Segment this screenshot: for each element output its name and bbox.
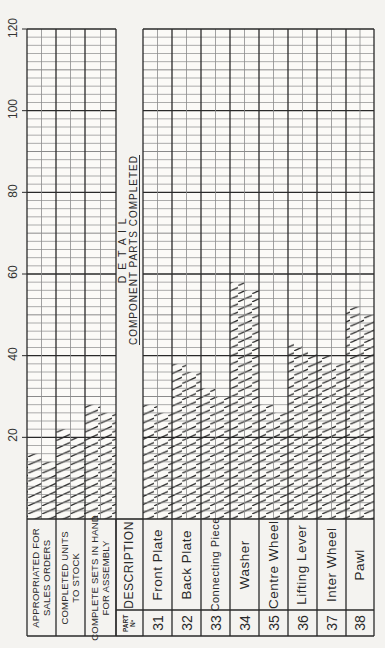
parts-bar-2-b bbox=[216, 397, 231, 520]
part-description-31: Front Plate bbox=[143, 519, 172, 610]
header-label-completed-units: COMPLETED UNITSTO STOCK bbox=[56, 519, 85, 636]
part-description-34: Washer bbox=[230, 519, 259, 610]
header-label-complete-sets: COMPLETE SETS IN HANDFOR ASSEMBLY bbox=[85, 519, 116, 636]
parts-bar-6-b bbox=[332, 364, 347, 519]
part-description-35: Centre Wheel bbox=[259, 519, 288, 610]
parts-bar-5 bbox=[288, 343, 303, 519]
detail-title-line1: D E T A I L bbox=[116, 155, 128, 345]
parts-bar-4-b bbox=[274, 413, 289, 519]
axis-label-80: 80 bbox=[6, 176, 20, 206]
part-number-36: 36 bbox=[288, 610, 317, 636]
production-progress-chart: 20 40 60 80 100 120 D E T A I L COMPONEN… bbox=[0, 0, 385, 648]
part-number-35: 35 bbox=[259, 610, 288, 636]
parts-bar-3 bbox=[230, 282, 245, 519]
parts-bar-5-b bbox=[303, 352, 318, 519]
description-header: DESCRIPTION bbox=[116, 519, 143, 610]
header-label-appropriated: APPROPRIATED FORSALES ORDERS bbox=[27, 519, 56, 636]
detail-title: D E T A I L COMPONENT PARTS COMPLETED bbox=[113, 140, 143, 360]
part-number-32: 32 bbox=[172, 610, 201, 636]
axis-label-40: 40 bbox=[6, 339, 20, 369]
parts-bar-7-b bbox=[360, 315, 374, 519]
part-description-32: Back Plate bbox=[172, 519, 201, 610]
header-bar-0-b bbox=[42, 462, 57, 519]
part-no-header: PARTNº bbox=[116, 610, 143, 636]
axis-label-100: 100 bbox=[6, 94, 20, 124]
axis-label-20: 20 bbox=[6, 420, 20, 450]
header-bar-1 bbox=[56, 429, 71, 519]
part-description-36: Lifting Lever bbox=[288, 519, 317, 610]
part-number-38: 38 bbox=[346, 610, 374, 636]
detail-title-line2: COMPONENT PARTS COMPLETED bbox=[128, 155, 140, 345]
parts-bar-0-b bbox=[158, 413, 173, 519]
part-number-34: 34 bbox=[230, 610, 259, 636]
part-number-31: 31 bbox=[143, 610, 172, 636]
parts-bar-1 bbox=[172, 364, 187, 519]
part-description-37: Inter Wheel bbox=[317, 519, 346, 610]
header-bar-2-b bbox=[101, 413, 117, 519]
part-description-33: Connecting Piece bbox=[201, 519, 230, 610]
part-number-37: 37 bbox=[317, 610, 346, 636]
axis-label-60: 60 bbox=[6, 257, 20, 287]
part-description-38: Pawl bbox=[346, 519, 374, 610]
part-number-33: 33 bbox=[201, 610, 230, 636]
axis-label-120: 120 bbox=[6, 13, 20, 43]
